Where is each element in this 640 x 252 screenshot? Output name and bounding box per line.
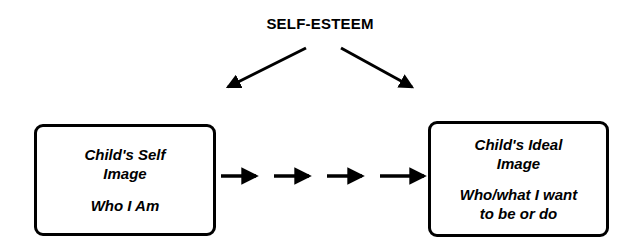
concept-box-self-image: Child's Self Image Who I Am	[34, 124, 216, 236]
ideal-image-heading: Child's Ideal Image	[475, 135, 563, 173]
diagram-title: SELF-ESTEEM	[0, 15, 640, 32]
ideal-image-heading-line-2: Image	[475, 154, 563, 173]
ideal-image-heading-line-1: Child's Ideal	[475, 135, 563, 154]
ideal-image-caption-line-1: Who/what I want	[460, 185, 578, 204]
self-image-heading-line-2: Image	[84, 164, 165, 183]
self-image-caption-line-1: Who I Am	[91, 196, 160, 215]
ideal-image-caption-line-2: to be or do	[460, 204, 578, 223]
self-image-caption: Who I Am	[91, 196, 160, 215]
self-image-heading-line-1: Child's Self	[84, 145, 165, 164]
diagram-canvas: SELF-ESTEEM Child's Self Image Who I Am …	[0, 0, 640, 252]
ideal-image-caption: Who/what I want to be or do	[460, 185, 578, 223]
self-image-heading: Child's Self Image	[84, 145, 165, 183]
diverging-arrow-left-icon	[228, 48, 306, 87]
concept-box-ideal-image: Child's Ideal Image Who/what I want to b…	[428, 121, 609, 237]
diverging-arrow-right-icon	[341, 48, 412, 87]
